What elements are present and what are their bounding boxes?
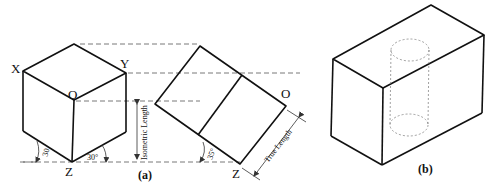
label-z: Z xyxy=(65,164,73,179)
hidden-cylinder xyxy=(390,39,429,136)
true-length-label: True Length xyxy=(262,128,293,165)
isometric-length-label: Isometric Length xyxy=(140,105,149,160)
caption-b: (b) xyxy=(418,162,433,176)
label-y: Y xyxy=(120,56,130,71)
rotated-cube xyxy=(155,46,286,164)
angle-left-label: 30 xyxy=(41,147,52,157)
isometric-projection-diagram: X Y O Z 30 30° Isometric Length (a) O Z … xyxy=(0,0,497,190)
angle-arc-left xyxy=(36,141,39,162)
label-o: O xyxy=(68,87,77,102)
rotated-label-o: O xyxy=(281,86,290,101)
isometric-cube xyxy=(23,44,126,162)
extension-line-bottom xyxy=(242,168,260,180)
rotated-label-z: Z xyxy=(232,166,240,181)
angle-arc-rotated xyxy=(200,142,204,162)
projection-lines xyxy=(20,44,300,162)
angle-arc-right xyxy=(102,145,106,162)
label-x: X xyxy=(11,61,21,76)
block-with-hole xyxy=(331,5,484,165)
caption-a: (a) xyxy=(138,168,152,182)
angle-right-label: 30° xyxy=(87,153,98,162)
angle-rotated-label: 35° xyxy=(205,147,217,161)
